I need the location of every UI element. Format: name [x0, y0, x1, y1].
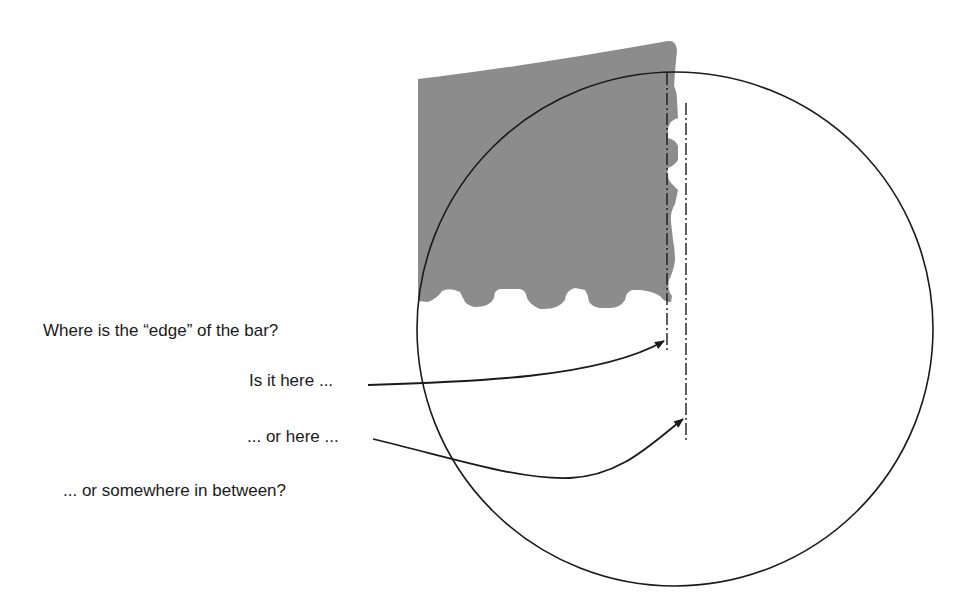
printed-bar [418, 41, 678, 309]
arrow-to-outer-edge [373, 419, 683, 478]
option-outer-edge-label: ... or here ... [247, 428, 339, 445]
edge-definition-diagram [0, 0, 962, 607]
arrow-to-inner-edge [368, 341, 664, 385]
question-label: Where is the “edge” of the bar? [43, 322, 278, 339]
option-inner-edge-label: Is it here ... [249, 372, 333, 389]
option-in-between-label: ... or somewhere in between? [63, 482, 286, 499]
